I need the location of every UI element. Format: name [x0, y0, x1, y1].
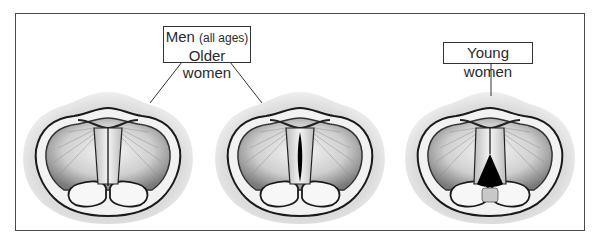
larynx-posterior-gap: [405, 92, 575, 224]
label-young-women-text: Young women: [464, 44, 512, 80]
label-men: Men: [166, 28, 195, 45]
label-young-women: Young women: [443, 42, 533, 64]
larynx-midline-gap: [215, 92, 385, 224]
label-men-older-women: Men (all ages) Older women: [163, 26, 251, 63]
larynx-closed: [23, 92, 193, 224]
label-all-ages: (all ages): [199, 31, 248, 45]
larynx-illustrations: [0, 0, 601, 246]
label-older-women: Older women: [164, 47, 250, 81]
